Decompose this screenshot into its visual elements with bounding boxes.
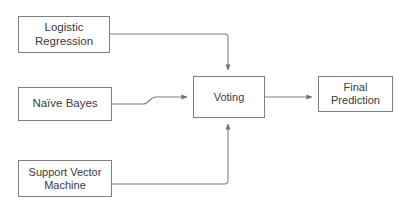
node-final-prediction-label: Final Prediction	[319, 81, 392, 107]
node-logistic-regression[interactable]: Logistic Regression	[18, 16, 110, 53]
node-naive-bayes-label: Naïve Bayes	[29, 97, 100, 111]
connector-naive-bayes-to-voting	[112, 97, 187, 104]
node-naive-bayes[interactable]: Naïve Bayes	[18, 87, 112, 121]
node-voting[interactable]: Voting	[193, 76, 265, 118]
diagram-canvas: Logistic Regression Naïve Bayes Support …	[0, 0, 407, 216]
node-voting-label: Voting	[211, 91, 248, 104]
node-logistic-regression-label: Logistic Regression	[19, 21, 109, 48]
connector-logistic-regression-to-voting	[110, 34, 228, 70]
node-final-prediction[interactable]: Final Prediction	[318, 76, 393, 112]
node-support-vector-machine-label: Support Vector Machine	[26, 166, 105, 192]
connector-support-vector-machine-to-voting	[112, 124, 228, 184]
node-support-vector-machine[interactable]: Support Vector Machine	[18, 160, 112, 197]
